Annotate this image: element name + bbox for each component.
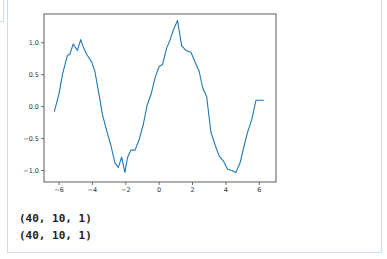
stdout-line-2: (40, 10, 1) xyxy=(19,229,92,242)
x-tick-label: −2 xyxy=(121,186,131,194)
y-axis-ticks: −1.0−0.50.00.51.0 xyxy=(23,39,44,175)
x-tick-label: −4 xyxy=(88,186,98,194)
stdout-line-1: (40, 10, 1) xyxy=(19,212,92,225)
x-tick-label: 6 xyxy=(257,186,261,194)
y-tick-label: 1.0 xyxy=(29,39,39,47)
x-tick-label: 2 xyxy=(190,186,194,194)
x-tick-label: 0 xyxy=(157,186,161,194)
y-tick-label: −0.5 xyxy=(23,135,39,143)
y-tick-label: 0.5 xyxy=(29,71,39,79)
line-plot: −1.0−0.50.00.51.0 −6−4−20246 xyxy=(0,0,387,200)
y-tick-label: −1.0 xyxy=(23,167,39,175)
x-axis-ticks: −6−4−20246 xyxy=(54,182,261,194)
y-tick-label: 0.0 xyxy=(29,103,39,111)
x-tick-label: 4 xyxy=(224,186,228,194)
x-tick-label: −6 xyxy=(54,186,64,194)
